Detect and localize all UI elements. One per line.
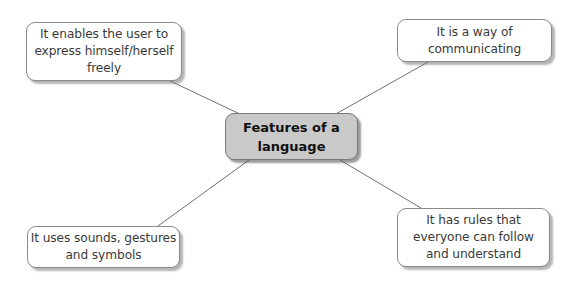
branch-text-line: and understand <box>426 246 521 263</box>
branch-text-line: It is a way of <box>436 24 512 41</box>
branch-text-line: freely <box>87 60 121 77</box>
branch-text-line: communicating <box>428 41 521 58</box>
branch-text-line: It has rules that <box>426 212 521 229</box>
connector-top-right <box>334 62 428 115</box>
central-topic-node: Features of a language <box>225 113 358 160</box>
branch-text-line: and symbols <box>65 247 141 264</box>
connector-bottom-left <box>158 160 249 226</box>
mind-map-canvas: It enables the user to express himself/h… <box>0 0 575 284</box>
branch-node-top-left: It enables the user to express himself/h… <box>26 22 182 81</box>
central-topic-line: language <box>258 137 326 156</box>
connector-top-left <box>168 80 242 115</box>
branch-node-bottom-left: It uses sounds, gestures and symbols <box>27 226 180 268</box>
branch-text-line: It uses sounds, gestures <box>31 230 176 247</box>
connector-bottom-right <box>340 160 421 208</box>
branch-node-top-right: It is a way of communicating <box>397 19 552 62</box>
central-topic-line: Features of a <box>243 118 340 137</box>
branch-text-line: everyone can follow <box>413 229 534 246</box>
branch-text-line: It enables the user to <box>40 26 168 43</box>
branch-node-bottom-right: It has rules that everyone can follow an… <box>397 208 550 267</box>
branch-text-line: express himself/herself <box>34 43 173 60</box>
